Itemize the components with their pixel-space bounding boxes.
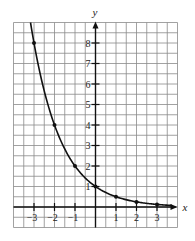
y-tick-label: 5 [86, 99, 91, 110]
x-tick-label: 2 [134, 212, 139, 223]
data-point [135, 200, 139, 204]
x-tick-label: −2 [47, 212, 58, 223]
data-point [114, 195, 118, 199]
data-point [32, 41, 36, 45]
data-point [94, 185, 98, 189]
exponential-graph: −3−2−112312345678 x y [0, 0, 195, 241]
x-tick-label: 3 [155, 212, 160, 223]
x-axis-label: x [182, 201, 188, 213]
y-tick-label: 8 [86, 38, 91, 49]
y-tick-label: 3 [86, 140, 91, 151]
y-axis-label: y [92, 6, 98, 18]
curve-line [31, 23, 172, 206]
y-tick-label: 4 [86, 120, 91, 131]
y-tick-label: 2 [86, 161, 91, 172]
data-point [155, 202, 159, 206]
y-tick-label: 6 [86, 79, 91, 90]
data-point [73, 164, 77, 168]
x-tick-label: −1 [68, 212, 79, 223]
data-point [53, 123, 57, 127]
y-tick-label: 7 [86, 58, 91, 69]
tick-labels: −3−2−112312345678 [27, 38, 160, 224]
x-tick-label: 1 [114, 212, 119, 223]
x-tick-label: −3 [27, 212, 38, 223]
y-tick-label: 1 [86, 181, 91, 192]
